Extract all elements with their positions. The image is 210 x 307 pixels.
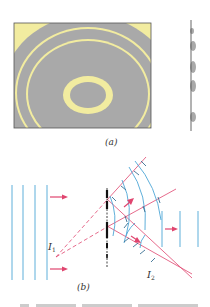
converging-rays xyxy=(107,199,192,278)
figure: (a) xyxy=(0,0,210,307)
caption-b: (b) xyxy=(77,282,90,292)
zone-plate-face xyxy=(2,15,174,171)
incoming-arrows xyxy=(50,195,68,272)
converging-wavefronts xyxy=(124,223,145,248)
wavefront-ticks xyxy=(112,161,160,262)
incoming-plane-waves xyxy=(12,185,47,280)
caption-a: (a) xyxy=(105,137,118,147)
opaque-center xyxy=(70,82,106,108)
label-i1: I1 xyxy=(47,241,56,253)
label-i2: I2 xyxy=(146,269,155,281)
zone-plate-profile xyxy=(190,20,196,131)
outgoing-arrow xyxy=(165,227,178,232)
